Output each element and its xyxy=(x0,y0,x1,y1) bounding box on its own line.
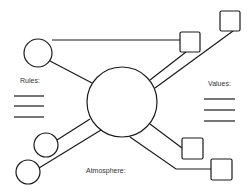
bottom-right-square-node-2 xyxy=(211,159,232,180)
top-right-square-node-2 xyxy=(220,11,240,31)
top-right-square-node-1 xyxy=(180,32,200,52)
connector-center-to-square-1 xyxy=(150,52,186,80)
bottom-left-circle-node-1 xyxy=(34,133,58,157)
values-label: Values: xyxy=(208,80,231,87)
atmosphere-label: Atmosphere: xyxy=(86,167,126,174)
connector-topleft-circle-to-center xyxy=(50,61,92,83)
connector-center-to-bottom-circle-1 xyxy=(57,119,90,140)
connector-center-to-bottom-square-1 xyxy=(150,124,182,148)
center-circle-node xyxy=(87,67,157,137)
bottom-left-circle-node-2 xyxy=(16,160,40,184)
rules-label: Rules: xyxy=(20,77,40,84)
bottom-right-square-node-1 xyxy=(182,138,203,159)
top-left-circle-node xyxy=(24,39,52,67)
diagram-canvas xyxy=(0,0,252,195)
